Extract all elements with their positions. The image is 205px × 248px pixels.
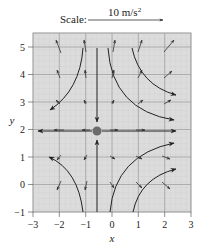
scale-indicator: Scale: 10 m/s2 (60, 6, 163, 25)
svg-text:−1: −1 (80, 219, 91, 230)
x-axis-label: x (109, 232, 115, 244)
svg-text:3: 3 (20, 97, 25, 108)
svg-text:0: 0 (110, 219, 115, 230)
svg-text:2: 2 (162, 219, 167, 230)
y-tick-labels: −1 0 1 2 3 4 5 (14, 42, 25, 218)
svg-text:0: 0 (20, 179, 25, 190)
scale-label: Scale: (60, 13, 87, 25)
svg-text:4: 4 (20, 69, 25, 80)
scale-value: 10 m/s2 (108, 6, 142, 18)
svg-text:1: 1 (20, 152, 25, 163)
y-axis-label: y (9, 114, 15, 126)
x-tick-labels: −3 −2 −1 0 1 2 3 (28, 219, 194, 230)
vector-field-diagram: Scale: 10 m/s2 −3 (0, 0, 205, 248)
svg-text:1: 1 (136, 219, 141, 230)
svg-text:3: 3 (189, 219, 194, 230)
svg-text:−1: −1 (14, 207, 25, 218)
svg-text:2: 2 (20, 124, 25, 135)
svg-text:−2: −2 (54, 219, 65, 230)
svg-text:5: 5 (20, 42, 25, 53)
center-point (93, 127, 102, 136)
svg-text:−3: −3 (28, 219, 39, 230)
